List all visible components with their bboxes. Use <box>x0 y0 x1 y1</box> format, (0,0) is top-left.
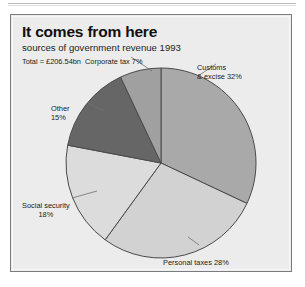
total-annotation: Total = £206.54bn <box>22 57 81 66</box>
slice-label-other-line1: Other <box>51 104 69 113</box>
slice-label-social-security-line1: Social security <box>22 201 70 210</box>
chart-clipping: It comes from here sources of government… <box>0 0 305 287</box>
slice-label-other: Other 15% <box>51 104 69 122</box>
slice-label-other-line2: 15% <box>51 113 69 122</box>
pie-chart <box>11 15 291 271</box>
slice-label-personal-taxes: Personal taxes 28% <box>163 258 229 267</box>
chart-panel: It comes from here sources of government… <box>10 14 292 272</box>
slice-label-customs-excise: Customs & excise 32% <box>197 63 242 81</box>
top-rule <box>8 3 296 4</box>
slice-label-social-security-line2: 18% <box>22 210 70 219</box>
top-rule-shadow <box>8 5 296 6</box>
pie-chart-svg <box>10 14 292 272</box>
slice-label-social-security: Social security 18% <box>22 201 70 219</box>
slice-label-customs-excise-line2: & excise 32% <box>197 72 242 81</box>
slice-label-customs-excise-line1: Customs <box>197 63 242 72</box>
slice-label-corporate-tax: Corporate tax 7% <box>85 57 143 66</box>
